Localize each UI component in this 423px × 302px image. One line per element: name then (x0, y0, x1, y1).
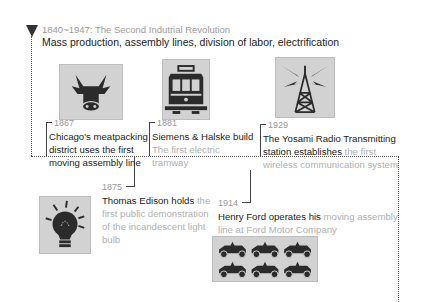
radio-tower-icon (275, 57, 335, 118)
event-desc-1881: Siemens & Halske build The first electri… (152, 130, 256, 169)
connector-1929-tick (260, 124, 266, 125)
period-title: 1840~1947: The Second Indutrial Revoluti… (42, 24, 230, 35)
connector-1881-tick (149, 122, 155, 123)
tram-icon (162, 59, 210, 120)
event-desc-1875: Thomas Edison holds the first public dem… (102, 194, 214, 246)
event-year-1914: 1914 (218, 198, 238, 208)
period-summary: Mass production, assembly lines, divisio… (42, 36, 339, 48)
timeline-path-left (31, 36, 32, 156)
timeline-start-marker-icon (26, 25, 38, 37)
event-year-1929: 1929 (268, 120, 288, 130)
event-year-1881: 1881 (157, 118, 177, 128)
connector-1867 (46, 122, 47, 156)
event-year-1867: 1867 (54, 118, 74, 128)
event-desc-1867: Chicago's meatpacking district uses the … (49, 130, 153, 169)
event-desc-1929: The Yosami Radio Transmitting station es… (263, 132, 403, 171)
cars-icon (212, 236, 318, 282)
connector-1929 (260, 124, 261, 156)
event-year-1875: 1875 (102, 182, 122, 192)
timeline-path-right (398, 156, 399, 302)
connector-1914-tick (242, 202, 251, 203)
cow-icon (59, 64, 123, 120)
event-desc-1914: Henry Ford operates his moving assembly … (218, 210, 398, 236)
connector-1875-tick (126, 186, 135, 187)
light-bulb-icon (39, 196, 91, 254)
connector-1914 (250, 170, 251, 203)
connector-1867-tick (46, 122, 52, 123)
